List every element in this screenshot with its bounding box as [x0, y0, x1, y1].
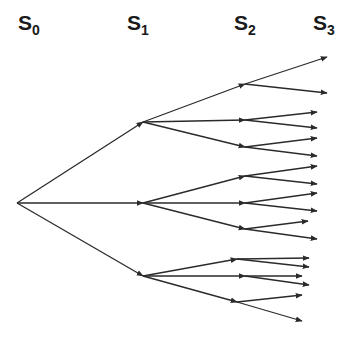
- edge-s1-s2-3: [143, 176, 245, 203]
- edge-s1-s2-6: [143, 259, 237, 276]
- edge-s2-s3-4-1: [245, 203, 317, 211]
- tree-edges: [0, 0, 344, 342]
- edge-s2-s3-4-0: [245, 193, 317, 203]
- edge-s2-s3-7-1: [245, 276, 309, 285]
- edge-s2-s3-6-1: [237, 259, 309, 267]
- edge-s1-s2-2: [143, 122, 245, 147]
- edge-s2-s3-1-0: [245, 112, 317, 120]
- edge-s2-s3-5-1: [245, 229, 317, 239]
- edge-s1-s2-8: [143, 276, 237, 302]
- edge-s2-s3-8-1: [237, 302, 302, 321]
- edge-s2-s3-6-0: [237, 258, 309, 259]
- scenario-tree-diagram: S0 S1 S2 S3: [0, 0, 344, 342]
- edge-s2-s3-2-0: [245, 138, 317, 147]
- edge-s2-s3-0-1: [245, 84, 327, 93]
- edge-s1-s2-1: [143, 120, 245, 122]
- edge-s2-s3-8-0: [237, 295, 302, 302]
- edge-s2-s3-2-1: [245, 147, 317, 156]
- edge-s1-s2-0: [143, 84, 245, 122]
- edge-s0-s1-2: [17, 203, 143, 276]
- edge-s1-s2-5: [143, 203, 245, 229]
- edge-s2-s3-3-1: [245, 176, 317, 184]
- edge-s2-s3-1-1: [245, 120, 317, 128]
- edge-s2-s3-0-0: [245, 57, 327, 84]
- edge-s0-s1-0: [17, 122, 143, 203]
- edge-s2-s3-5-0: [245, 221, 308, 229]
- edge-s2-s3-3-0: [245, 166, 317, 176]
